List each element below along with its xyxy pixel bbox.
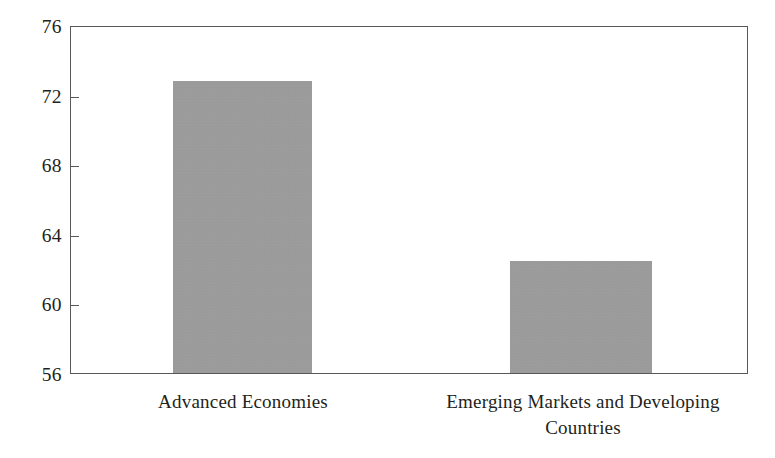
- y-tick-label-68: 68: [6, 156, 62, 176]
- y-tick-mark-72: [70, 97, 79, 98]
- y-tick-label-72: 72: [6, 87, 62, 107]
- bar-advanced-economies: [173, 81, 312, 373]
- y-tick-mark-68: [70, 166, 79, 167]
- category-label-line1: Emerging Markets and Developing: [446, 391, 719, 412]
- y-tick-mark-60: [70, 305, 79, 306]
- category-label-advanced-economies: Advanced Economies: [128, 389, 358, 415]
- category-label-line2: Countries: [545, 417, 621, 438]
- y-tick-mark-64: [70, 236, 79, 237]
- y-axis: 76 72 68 64 60 56: [0, 0, 62, 458]
- bar-emerging-markets: [510, 261, 652, 373]
- y-tick-label-64: 64: [6, 226, 62, 246]
- category-label-emerging-markets: Emerging Markets and Developing Countrie…: [418, 389, 748, 441]
- y-tick-label-76: 76: [6, 17, 62, 37]
- category-label-line1: Advanced Economies: [158, 391, 328, 412]
- y-tick-label-60: 60: [6, 295, 62, 315]
- y-tick-label-56: 56: [6, 365, 62, 385]
- bar-chart: 76 72 68 64 60 56 Advanced Economies Eme…: [0, 0, 775, 458]
